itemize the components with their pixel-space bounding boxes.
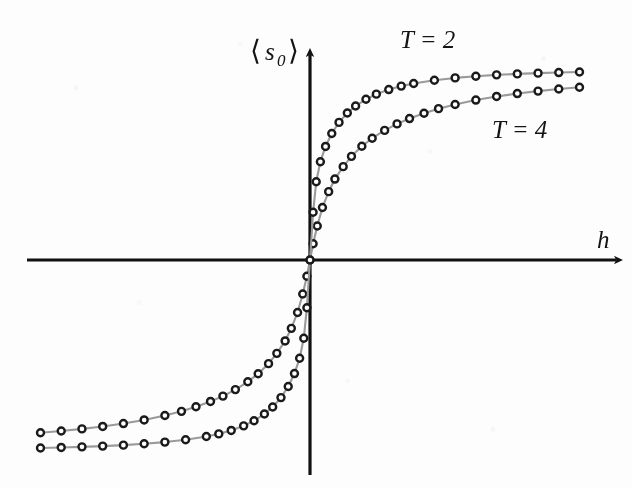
data-point [207, 398, 214, 405]
data-point [141, 440, 148, 447]
data-point [99, 423, 106, 430]
data-point [381, 127, 388, 134]
data-point [340, 163, 347, 170]
data-point [307, 257, 314, 264]
data-point [373, 91, 380, 98]
data-point [319, 204, 326, 211]
data-point [37, 445, 44, 452]
data-point [472, 97, 479, 104]
data-point [277, 394, 284, 401]
data-point [291, 370, 298, 377]
y-axis-label-symbol: s [265, 38, 275, 65]
data-point [261, 411, 268, 418]
data-point [576, 69, 583, 76]
data-point [493, 93, 500, 100]
data-point [303, 304, 310, 311]
data-point [219, 393, 226, 400]
data-point [78, 443, 85, 450]
data-point [192, 403, 199, 410]
data-point [228, 427, 235, 434]
data-point [493, 71, 500, 78]
data-point [273, 350, 280, 357]
data-point [410, 80, 417, 87]
data-point [362, 96, 369, 103]
data-point [251, 417, 258, 424]
data-point [265, 360, 272, 367]
data-point [385, 86, 392, 93]
data-point [358, 143, 365, 150]
data-point [58, 428, 65, 435]
data-point [203, 433, 210, 440]
series-annotations-group: T = 2 T = 4 [400, 26, 547, 143]
data-point [310, 209, 317, 216]
data-point [99, 443, 106, 450]
y-axis-label-open-bracket: ⟨ [250, 35, 261, 66]
data-point [244, 378, 251, 385]
data-point [141, 416, 148, 423]
data-point [215, 430, 222, 437]
data-point [452, 101, 459, 108]
data-point [325, 188, 332, 195]
data-point [555, 85, 562, 92]
data-point [535, 70, 542, 77]
data-point [178, 408, 185, 415]
data-point [120, 420, 127, 427]
data-point [435, 105, 442, 112]
data-point [299, 290, 306, 297]
data-point [269, 403, 276, 410]
data-point [285, 383, 292, 390]
data-point [37, 429, 44, 436]
data-point [58, 444, 65, 451]
data-point [514, 70, 521, 77]
data-point [336, 119, 343, 126]
data-point [314, 223, 321, 230]
data-point [288, 325, 295, 332]
data-point [317, 158, 324, 165]
data-point [232, 386, 239, 393]
y-axis-label-close-bracket: ⟩ [288, 35, 299, 66]
data-point [576, 84, 583, 91]
data-point [348, 153, 355, 160]
data-point [282, 337, 289, 344]
data-point [296, 355, 303, 362]
data-point [182, 436, 189, 443]
data-point [328, 130, 335, 137]
data-point [161, 439, 168, 446]
series-label-T2: T = 2 [400, 26, 455, 53]
data-point [240, 422, 247, 429]
data-point [78, 425, 85, 432]
data-point [452, 74, 459, 81]
series-label-T4: T = 4 [492, 116, 547, 143]
data-point [120, 442, 127, 449]
data-point [322, 143, 329, 150]
x-axis-label: h [597, 226, 610, 253]
data-point [369, 135, 376, 142]
data-point [406, 115, 413, 122]
data-point [255, 370, 262, 377]
data-point [161, 412, 168, 419]
data-point [514, 90, 521, 97]
data-point [344, 110, 351, 117]
data-point [300, 335, 307, 342]
axis-labels-group: ⟨ s 0 ⟩ h [250, 35, 610, 253]
data-point [535, 88, 542, 95]
data-point [331, 176, 338, 183]
data-point [555, 69, 562, 76]
data-point [398, 83, 405, 90]
y-axis-label-subscript: 0 [277, 51, 286, 70]
data-point [431, 77, 438, 84]
data-point [472, 73, 479, 80]
magnetization-chart: ⟨ s 0 ⟩ h T = 2 T = 4 [0, 0, 632, 488]
data-point [394, 120, 401, 127]
data-point [294, 309, 301, 316]
data-point [421, 110, 428, 117]
data-point [313, 178, 320, 185]
data-point [352, 102, 359, 109]
